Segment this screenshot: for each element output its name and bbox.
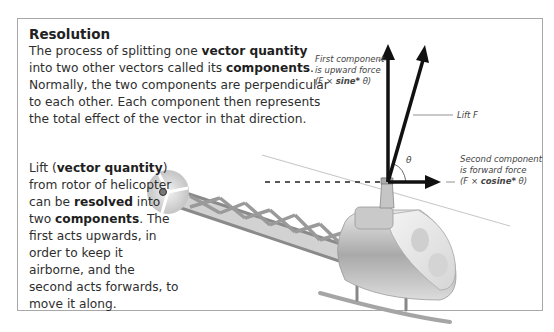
angle-arc xyxy=(394,164,406,182)
helicopter-explanation: Lift (vector quantity) from rotor of hel… xyxy=(29,160,179,313)
diagram-title: Resolution xyxy=(29,26,110,42)
helicopter-body xyxy=(338,178,457,300)
resolution-definition: The process of splitting one vector quan… xyxy=(29,43,329,128)
vector-arrows xyxy=(381,44,441,189)
angle-label: θ xyxy=(406,155,412,166)
second-component-label: Second component is forward force (F × c… xyxy=(460,154,542,187)
lift-label: Lift F xyxy=(457,110,478,121)
first-component-label: First component is upward force (F × sin… xyxy=(315,54,384,87)
tail-boom xyxy=(175,191,365,268)
